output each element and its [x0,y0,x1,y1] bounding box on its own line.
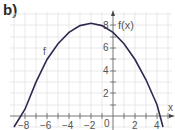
x-tick-label: −2 [84,120,96,130]
origin-label: 0 [104,118,110,129]
y-tick-label: 4 [103,65,109,76]
axes [10,10,175,130]
x-tick-label: 2 [132,120,138,130]
y-tick-label: 6 [103,42,109,53]
y-axis-arrow-icon [111,10,115,16]
function-graph: −8 −6 −4 −2 0 2 4 2 4 6 8 f(x) x f [0,0,175,130]
y-axis-label: f(x) [118,19,134,31]
x-tick-label: −6 [40,120,52,130]
x-tick-label: −4 [62,120,74,130]
x-axis-label: x [168,102,173,113]
y-tick-label: 2 [103,88,109,99]
x-tick-label: 4 [154,120,160,130]
x-axis-arrow-icon [169,114,175,118]
grid [10,12,172,128]
x-tick-label: −8 [18,120,30,130]
curve-label: f [43,46,46,57]
